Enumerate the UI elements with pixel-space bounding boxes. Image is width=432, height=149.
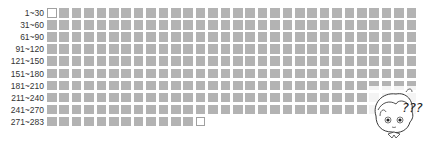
filled-cell: [270, 56, 280, 66]
filled-cell: [382, 56, 392, 66]
filled-cell: [84, 8, 94, 18]
filled-cell: [357, 44, 367, 54]
filled-cell: [221, 32, 231, 42]
filled-cell: [121, 105, 131, 115]
filled-cell: [369, 32, 379, 42]
filled-cell: [146, 117, 156, 127]
filled-cell: [109, 69, 119, 79]
filled-cell: [345, 93, 355, 103]
filled-cell: [357, 8, 367, 18]
filled-cell: [196, 44, 206, 54]
filled-cell: [295, 44, 305, 54]
row-range-label: 181~210: [0, 81, 44, 91]
filled-cell: [394, 20, 404, 30]
filled-cell: [283, 20, 293, 30]
row-range-label: 61~90: [0, 32, 44, 42]
filled-cell: [109, 44, 119, 54]
filled-cell: [270, 69, 280, 79]
filled-cell: [233, 81, 243, 91]
filled-cell: [97, 32, 107, 42]
filled-cell: [183, 8, 193, 18]
filled-cell: [332, 93, 342, 103]
filled-cell: [97, 44, 107, 54]
filled-cell: [320, 8, 330, 18]
filled-cell: [171, 93, 181, 103]
filled-cell: [97, 117, 107, 127]
filled-cell: [171, 20, 181, 30]
filled-cell: [221, 93, 231, 103]
filled-cell: [233, 69, 243, 79]
filled-cell: [84, 56, 94, 66]
filled-cell: [59, 105, 69, 115]
filled-cell: [394, 69, 404, 79]
filled-cell: [183, 20, 193, 30]
filled-cell: [84, 105, 94, 115]
filled-cell: [84, 44, 94, 54]
filled-cell: [171, 117, 181, 127]
filled-cell: [183, 56, 193, 66]
filled-cell: [382, 44, 392, 54]
row-range-label: 121~150: [0, 56, 44, 66]
filled-cell: [72, 56, 82, 66]
filled-cell: [332, 20, 342, 30]
filled-cell: [320, 105, 330, 115]
filled-cell: [159, 8, 169, 18]
filled-cell: [208, 105, 218, 115]
filled-cell: [345, 32, 355, 42]
filled-cell: [307, 93, 317, 103]
filled-cell: [59, 81, 69, 91]
filled-cell: [345, 105, 355, 115]
filled-cell: [59, 20, 69, 30]
filled-cell: [59, 32, 69, 42]
filled-cell: [382, 69, 392, 79]
filled-cell: [221, 69, 231, 79]
filled-cell: [72, 81, 82, 91]
row-range-label: 241~270: [0, 105, 44, 115]
filled-cell: [307, 81, 317, 91]
filled-cell: [72, 8, 82, 18]
filled-cell: [258, 81, 268, 91]
filled-cell: [221, 44, 231, 54]
filled-cell: [270, 44, 280, 54]
filled-cell: [332, 105, 342, 115]
filled-cell: [270, 8, 280, 18]
filled-cell: [171, 56, 181, 66]
filled-cell: [183, 32, 193, 42]
filled-cell: [208, 8, 218, 18]
filled-cell: [109, 105, 119, 115]
filled-cell: [369, 69, 379, 79]
filled-cell: [121, 20, 131, 30]
filled-cell: [208, 69, 218, 79]
filled-cell: [146, 20, 156, 30]
filled-cell: [47, 93, 57, 103]
filled-cell: [320, 81, 330, 91]
filled-cell: [233, 105, 243, 115]
filled-cell: [84, 32, 94, 42]
filled-cell: [221, 81, 231, 91]
filled-cell: [84, 81, 94, 91]
filled-cell: [270, 32, 280, 42]
filled-cell: [345, 69, 355, 79]
filled-cell: [283, 105, 293, 115]
filled-cell: [72, 69, 82, 79]
filled-cell: [245, 20, 255, 30]
filled-cell: [295, 81, 305, 91]
filled-cell: [357, 69, 367, 79]
filled-cell: [109, 8, 119, 18]
filled-cell: [59, 69, 69, 79]
filled-cell: [307, 44, 317, 54]
filled-cell: [208, 56, 218, 66]
filled-cell: [245, 81, 255, 91]
filled-cell: [357, 81, 367, 91]
filled-cell: [159, 69, 169, 79]
filled-cell: [97, 69, 107, 79]
filled-cell: [146, 32, 156, 42]
filled-cell: [47, 32, 57, 42]
filled-cell: [320, 56, 330, 66]
filled-cell: [146, 56, 156, 66]
filled-cell: [134, 117, 144, 127]
filled-cell: [159, 56, 169, 66]
filled-cell: [183, 105, 193, 115]
filled-cell: [394, 56, 404, 66]
filled-cell: [121, 44, 131, 54]
